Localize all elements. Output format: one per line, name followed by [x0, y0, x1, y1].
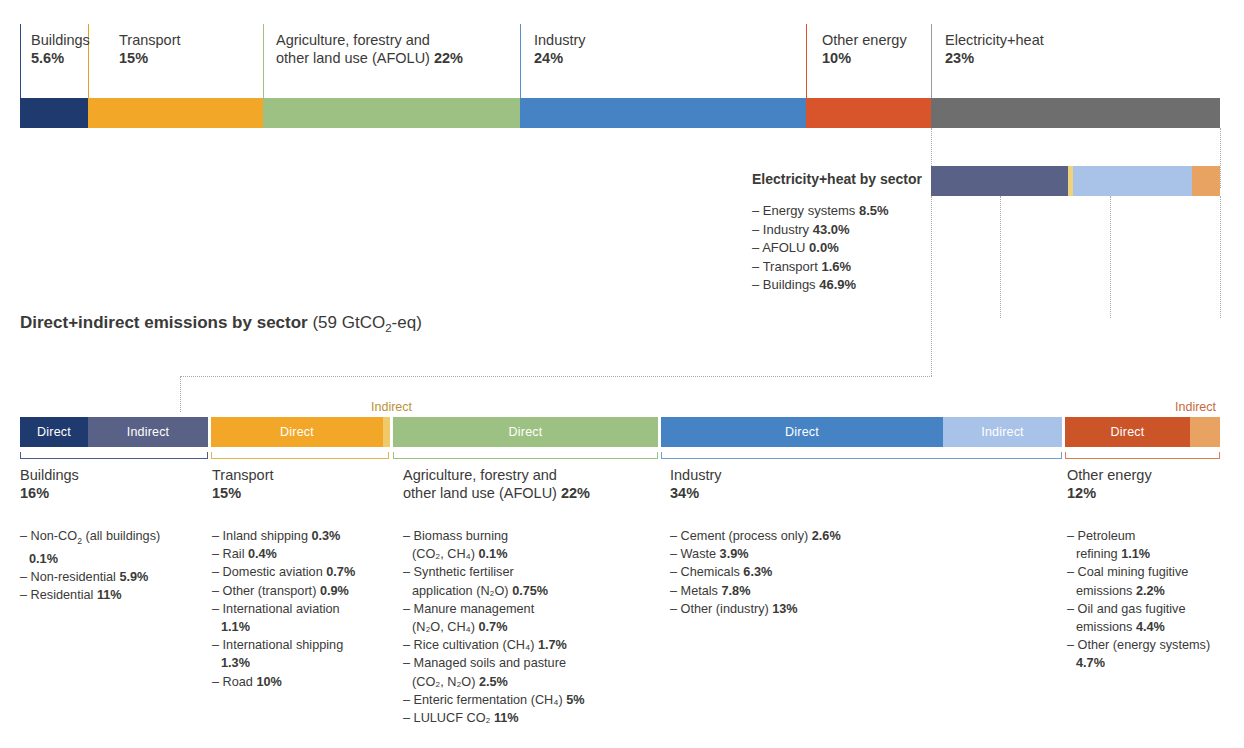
eh-item-0: – Energy systems 8.5%: [752, 202, 889, 221]
list-item: – Non-residential 5.9%: [20, 568, 200, 586]
item-dash: –: [212, 602, 219, 616]
label-electricity-heat-pct: 23%: [945, 50, 974, 66]
item-pct: 0.9%: [320, 584, 349, 598]
item-text-mid: (all buildings): [82, 529, 160, 543]
bar2-segment-other-energy-indirect[interactable]: [1190, 417, 1220, 447]
item-text: Cement (process only): [681, 529, 812, 543]
bar1-segment-transport[interactable]: [88, 98, 263, 128]
item-dash: –: [403, 565, 410, 579]
list-item-continuation: (CO₂, CH₄) 0.1%: [403, 545, 653, 563]
item-dash: –: [403, 602, 410, 616]
item-pct: 0.1%: [479, 547, 508, 561]
label-industry: Industry 24%: [534, 31, 586, 67]
group-head-industry: Industry 34%: [670, 466, 722, 502]
item-pct: 0.75%: [512, 584, 548, 598]
bar2-segment-transport-direct[interactable]: Direct: [211, 417, 383, 447]
bar2-label-buildings-direct: Direct: [20, 425, 88, 439]
list-item-continuation: application (N₂O) 0.75%: [403, 582, 653, 600]
group-list-transport: – Inland shipping 0.3% – Rail 0.4% – Dom…: [212, 527, 397, 691]
list-item-continuation: 0.1%: [20, 550, 200, 568]
group-list-afolu: – Biomass burning (CO₂, CH₄) 0.1% – Synt…: [403, 527, 653, 727]
bar2-segment-industry-indirect[interactable]: Indirect: [943, 417, 1062, 447]
group-head-afolu: Agriculture, forestry and other land use…: [403, 466, 590, 502]
item-dash: –: [20, 588, 27, 602]
item-text: Other (industry): [681, 602, 773, 616]
item-text-2: (CO₂, CH₄): [412, 547, 479, 561]
list-item: – International aviation: [212, 600, 397, 618]
label-afolu-pct: 22%: [434, 50, 463, 66]
bracket-transport: [211, 452, 389, 459]
item-dash: –: [20, 529, 27, 543]
bar2-segment-buildings-indirect[interactable]: Indirect: [88, 417, 208, 447]
bar2-segment-industry-direct[interactable]: Direct: [661, 417, 943, 447]
item-pct: 0.4%: [248, 547, 277, 561]
item-text: Road: [223, 675, 257, 689]
item-pct: 1.7%: [538, 638, 567, 652]
item-text: Petroleum: [1078, 529, 1136, 543]
electricity-heat-item-list: – Energy systems 8.5% – Industry 43.0% –…: [752, 202, 889, 295]
item-dash: –: [670, 584, 677, 598]
item-text: Rice cultivation (CH₄): [414, 638, 538, 652]
group-head-buildings: Buildings 16%: [20, 466, 79, 502]
bar2-segment-other-energy-direct[interactable]: Direct: [1065, 417, 1190, 447]
item-pct: 11%: [494, 711, 519, 725]
group-head-afolu-pct: 22%: [561, 485, 590, 501]
group-list-buildings: – Non-CO2 (all buildings) 0.1% – Non-res…: [20, 527, 200, 604]
bar-eh-segment-d[interactable]: [1192, 166, 1220, 196]
item-text: Other (energy systems): [1078, 638, 1211, 652]
eh-item-4: – Buildings 46.9%: [752, 276, 889, 295]
group-head-other-energy: Other energy 12%: [1067, 466, 1152, 502]
bar2-segment-transport-indirect[interactable]: [383, 417, 390, 447]
item-text-2: refining: [1076, 547, 1121, 561]
bar2-segment-buildings-direct[interactable]: Direct: [20, 417, 88, 447]
item-dash: –: [403, 638, 410, 652]
section-title: Direct+indirect emissions by sector (59 …: [20, 313, 422, 334]
eh-item-4-pct: 46.9%: [819, 277, 856, 292]
eh-item-3-dash: –: [752, 259, 759, 274]
electricity-heat-title: Electricity+heat by sector: [752, 171, 922, 187]
bar1-segment-buildings[interactable]: [20, 98, 88, 128]
item-pct: 2.6%: [812, 529, 841, 543]
bar-eh-segment-c[interactable]: [1073, 166, 1192, 196]
item-text: Non-residential: [31, 570, 120, 584]
bar1-segment-industry[interactable]: [520, 98, 806, 128]
item-pct: 3.9%: [720, 547, 749, 561]
bracket-other-energy: [1065, 452, 1220, 459]
direct-emissions-chart: Buildings 5.6% Transport 15% Agriculture…: [0, 0, 1244, 150]
item-dash: –: [212, 584, 219, 598]
eh-item-2-name: AFOLU: [762, 240, 805, 255]
list-item: – Synthetic fertiliser: [403, 563, 653, 581]
label-other-energy: Other energy 10%: [822, 31, 907, 67]
eh-item-1-pct: 43.0%: [813, 222, 850, 237]
eh-item-0-name: Energy systems: [763, 203, 855, 218]
item-dash: –: [1067, 638, 1074, 652]
list-item: – LULUCF CO₂ 11%: [403, 709, 653, 727]
label-buildings: Buildings 5.6%: [31, 31, 90, 67]
bar1-segment-electricity-heat[interactable]: [931, 98, 1220, 128]
item-pct: 13%: [772, 602, 797, 616]
tick-electricity-heat: [931, 24, 932, 98]
item-dash: –: [403, 693, 410, 707]
list-item: – Inland shipping 0.3%: [212, 527, 397, 545]
bracket-buildings: [20, 452, 208, 459]
label-afolu-line2: other land use (AFOLU): [276, 50, 430, 66]
list-item: – Oil and gas fugitive: [1067, 600, 1237, 618]
bar2-segment-afolu-direct[interactable]: Direct: [393, 417, 658, 447]
label-transport-text: Transport: [119, 32, 181, 48]
list-item: – Enteric fermentation (CH₄) 5%: [403, 691, 653, 709]
list-item-continuation: refining 1.1%: [1067, 545, 1237, 563]
item-text: Managed soils and pasture: [414, 656, 566, 670]
bar1-segment-other-energy[interactable]: [806, 98, 931, 128]
eh-item-3: – Transport 1.6%: [752, 258, 889, 277]
item-pct: 0.7%: [326, 565, 355, 579]
bar-eh-segment-a[interactable]: [931, 166, 1068, 196]
item-dash: –: [670, 602, 677, 616]
direct-emissions-stacked-bar: [20, 98, 1220, 128]
electricity-heat-breakdown: Electricity+heat by sector – Energy syst…: [0, 150, 1244, 310]
item-dash: –: [212, 529, 219, 543]
item-text: Non-CO: [31, 529, 78, 543]
list-item-continuation: emissions 2.2%: [1067, 582, 1237, 600]
bar1-segment-afolu[interactable]: [263, 98, 520, 128]
item-dash: –: [670, 565, 677, 579]
list-item: – Other (industry) 13%: [670, 600, 930, 618]
